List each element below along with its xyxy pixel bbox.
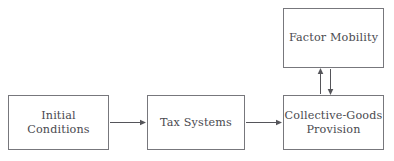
node-initial-conditions: Initial Conditions <box>8 95 109 150</box>
edge-tax-systems-to-collective-goods <box>246 120 282 126</box>
node-initial-conditions-label: Initial Conditions <box>9 109 108 136</box>
node-collective-goods-provision-label: Collective-Goods Provision <box>285 109 383 136</box>
diagram-canvas: Initial Conditions Tax Systems Collectiv… <box>0 0 394 161</box>
edge-initial-conditions-to-tax-systems <box>110 120 146 126</box>
edge-collective-goods-to-factor-mobility <box>318 68 324 94</box>
node-tax-systems-label: Tax Systems <box>160 116 232 130</box>
edge-factor-mobility-to-collective-goods <box>328 69 334 95</box>
node-factor-mobility: Factor Mobility <box>283 8 384 68</box>
node-factor-mobility-label: Factor Mobility <box>289 31 378 45</box>
node-tax-systems: Tax Systems <box>147 95 245 150</box>
node-collective-goods-provision: Collective-Goods Provision <box>283 95 384 150</box>
